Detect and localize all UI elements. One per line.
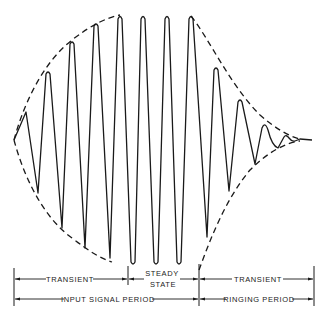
- label-transient-left: TRANSIENT: [46, 275, 94, 284]
- transient-response-diagram: TRANSIENT STEADY STATE TRANSIENT INPUT S…: [0, 0, 327, 318]
- dim-row-1: TRANSIENT STEADY STATE TRANSIENT: [15, 269, 313, 289]
- label-steady: STEADY: [145, 269, 179, 278]
- lower-envelope-right: [199, 141, 300, 270]
- dim-row-2: INPUT SIGNAL PERIOD RINGING PERIOD: [15, 295, 313, 304]
- waveform: [14, 17, 312, 265]
- label-state: STATE: [150, 280, 176, 289]
- label-ringing-period: RINGING PERIOD: [223, 295, 294, 304]
- label-transient-right: TRANSIENT: [234, 275, 282, 284]
- label-input-signal-period: INPUT SIGNAL PERIOD: [61, 295, 155, 304]
